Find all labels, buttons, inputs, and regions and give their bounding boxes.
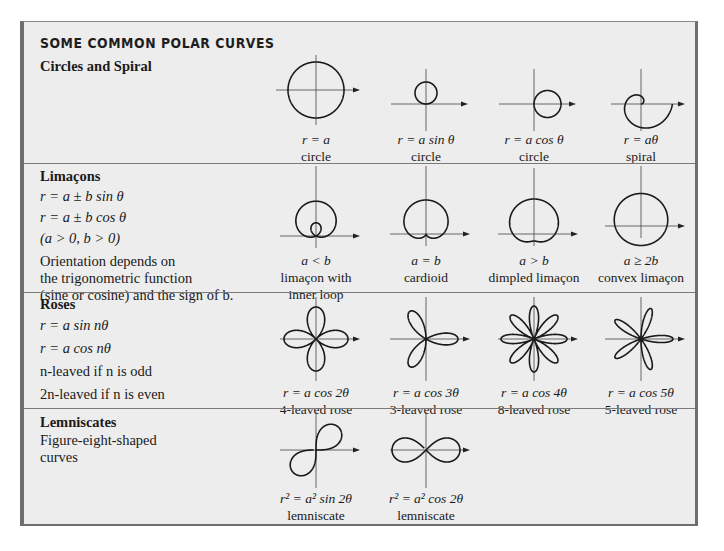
rose-rule-even: 2n-leaved if n is even <box>40 386 165 403</box>
figure-equation: r = a cos 3θ <box>371 384 481 401</box>
limacon-condition: (a > 0, b > 0) <box>40 230 120 247</box>
rose-rule-odd: n-leaved if n is odd <box>40 363 152 380</box>
figure-equation: r = a cos 5θ <box>586 384 696 401</box>
figure-name: convex limaçon <box>586 269 696 286</box>
figure-lemniscate-sin: r² = a² sin 2θ lemniscate <box>261 410 371 524</box>
lemniscate-description-2: curves <box>40 449 78 466</box>
spiral-graph-icon <box>586 37 696 131</box>
rose-3-graph-icon <box>371 294 481 384</box>
cardioid-graph-icon <box>371 164 481 252</box>
section-heading-circles: Circles and Spiral <box>40 58 152 75</box>
figure-rose-4: r = a cos 2θ 4-leaved rose <box>261 294 371 418</box>
figure-equation: r = a <box>261 131 371 148</box>
figure-circle-sin: r = a sin θ circle <box>371 37 481 165</box>
figure-limacon-inner-loop: a < b limaçon with inner loop <box>261 164 371 303</box>
limacon-inner-loop-graph-icon <box>261 164 371 252</box>
figure-name: 8-leaved rose <box>479 401 589 418</box>
text: r = a cos nθ <box>40 340 111 356</box>
figure-name: 5-leaved rose <box>586 401 696 418</box>
figure-circle-cos: r = a cos θ circle <box>479 37 589 165</box>
text: (a > 0, b > 0) <box>40 230 120 246</box>
figure-equation: r² = a² cos 2θ <box>371 490 481 507</box>
polar-curves-panel: SOME COMMON POLAR CURVES Circles and Spi… <box>20 21 698 526</box>
panel-title: SOME COMMON POLAR CURVES <box>40 35 274 51</box>
section-heading-roses: Roses <box>40 296 75 313</box>
limacon-note-1: Orientation depends on <box>40 253 175 270</box>
figure-equation: a > b <box>479 252 589 269</box>
lemniscate-description-1: Figure-eight-shaped <box>40 432 157 449</box>
figure-lemniscate-cos: r² = a² cos 2θ lemniscate <box>371 410 481 524</box>
figure-name: lemniscate <box>371 507 481 524</box>
figure-equation: r = a cos 4θ <box>479 384 589 401</box>
figure-name: cardioid <box>371 269 481 286</box>
section-heading-lemniscates: Lemniscates <box>40 414 117 431</box>
figure-convex-limacon: a ≥ 2b convex limaçon <box>586 164 696 286</box>
lemniscate-cos-graph-icon <box>371 410 481 490</box>
figure-name: limaçon with <box>261 269 371 286</box>
text: r = a ± b sin θ <box>40 188 124 204</box>
rose-5-graph-icon <box>586 294 696 384</box>
figure-dimpled-limacon: a > b dimpled limaçon <box>479 164 589 286</box>
dimpled-limacon-graph-icon <box>479 164 589 252</box>
section-divider <box>24 408 695 409</box>
figure-rose-8: r = a cos 4θ 8-leaved rose <box>479 294 589 418</box>
figure-rose-5: r = a cos 5θ 5-leaved rose <box>586 294 696 418</box>
rose-equation-sin: r = a sin nθ <box>40 317 108 334</box>
convex-limacon-graph-icon <box>586 164 696 252</box>
section-heading-limacons: Limaçons <box>40 168 100 185</box>
lemniscate-sin-graph-icon <box>261 410 371 490</box>
figure-equation: r² = a² sin 2θ <box>261 490 371 507</box>
text: r = a sin nθ <box>40 317 108 333</box>
limacon-equation-cos: r = a ± b cos θ <box>40 209 126 226</box>
figure-equation: r = a cos θ <box>479 131 589 148</box>
rose-4-graph-icon <box>261 294 371 384</box>
figure-equation: r = a sin θ <box>371 131 481 148</box>
rose-8-graph-icon <box>479 294 589 384</box>
limacon-equation-sin: r = a ± b sin θ <box>40 188 124 205</box>
figure-name: lemniscate <box>261 507 371 524</box>
figure-equation: a < b <box>261 252 371 269</box>
figure-cardioid: a = b cardioid <box>371 164 481 286</box>
section-divider <box>24 292 695 293</box>
figure-name: dimpled limaçon <box>479 269 589 286</box>
figure-equation: r = a cos 2θ <box>261 384 371 401</box>
limacon-note-2: the trigonometric function <box>40 270 192 287</box>
figure-circle-centered: r = a circle <box>261 37 371 165</box>
circle-centered-graph-icon <box>261 37 371 131</box>
figure-equation: a ≥ 2b <box>586 252 696 269</box>
circle-cos-graph-icon <box>479 37 589 131</box>
circle-sin-graph-icon <box>371 37 481 131</box>
figure-spiral: r = aθ spiral <box>586 37 696 165</box>
text: r = a ± b cos θ <box>40 209 126 225</box>
rose-equation-cos: r = a cos nθ <box>40 340 111 357</box>
figure-rose-3: r = a cos 3θ 3-leaved rose <box>371 294 481 418</box>
figure-equation: a = b <box>371 252 481 269</box>
figure-equation: r = aθ <box>586 131 696 148</box>
